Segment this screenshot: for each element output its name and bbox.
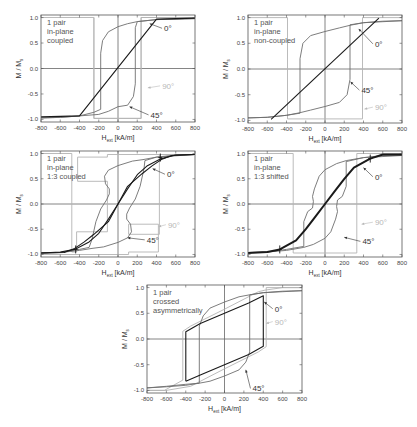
panel-label-line: in-plane (254, 163, 281, 172)
x-tick-label: -800 (35, 260, 48, 266)
x-tick-label: 800 (397, 126, 408, 132)
angle-label: 45° (362, 237, 374, 246)
y-tick-label: -0.5 (28, 226, 39, 232)
x-tick-label: -800 (35, 125, 48, 131)
panel-label-line: coupled (47, 36, 73, 45)
angle-label: 0° (375, 40, 383, 49)
y-tick-label: 0.5 (237, 176, 246, 182)
angle-label: 45° (361, 86, 373, 95)
x-tick-label: 400 (258, 396, 269, 402)
x-tick-label: 800 (190, 260, 201, 266)
angle-label: 0° (164, 24, 172, 33)
x-tick-label: 200 (339, 260, 350, 266)
x-tick-label: 0 (323, 260, 327, 266)
y-tick-label: 1.0 (30, 15, 39, 21)
panel-1-3-coupled: -800-600-400-2000200400600800-1.0-0.50.0… (15, 151, 201, 278)
y-axis-title: M / Ms (15, 58, 24, 79)
angle-label: 0° (375, 173, 383, 182)
x-tick-label: 0 (116, 260, 120, 266)
x-tick-label: 200 (339, 126, 350, 132)
x-tick-label: -200 (93, 260, 106, 266)
angle-label: 0° (275, 305, 283, 314)
arrowhead-icon (245, 370, 248, 373)
arrowhead-icon (148, 86, 151, 89)
x-tick-label: 600 (171, 125, 182, 131)
x-tick-label: -600 (54, 260, 67, 266)
arrowhead-icon (364, 107, 367, 110)
hysteresis-figure: -800-600-400-2000200400600800-1.0-0.50.0… (0, 0, 417, 427)
x-tick-label: -200 (199, 396, 212, 402)
panel-label-line: asymmetrically (153, 306, 203, 315)
panel-non-coupled: -800-600-400-2000200400600800-1.0-0.50.0… (222, 15, 408, 144)
y-axis-title: M / Ms (15, 193, 24, 214)
panel-label-line: 1 pair (254, 154, 273, 163)
x-tick-label: -200 (93, 125, 106, 131)
arrowhead-icon (344, 237, 347, 240)
x-axis-title: Hext [kA/m] (208, 405, 241, 414)
panel-label-line: in-plane (254, 27, 281, 36)
x-tick-label: 400 (358, 126, 369, 132)
x-tick-label: 200 (239, 396, 250, 402)
y-axis-title: M / Ms (222, 58, 231, 79)
x-tick-label: -400 (280, 260, 293, 266)
panel-label-line: 1 pair (47, 18, 66, 27)
x-tick-label: 600 (171, 260, 182, 266)
y-tick-label: 0.0 (237, 201, 246, 207)
y-axis-title: M / Ms (222, 193, 231, 214)
y-tick-label: 0.0 (30, 201, 39, 207)
x-tick-label: 0 (323, 126, 327, 132)
angle-label: 90° (275, 318, 287, 327)
angle-label: 90° (162, 82, 174, 91)
x-tick-label: 400 (151, 125, 162, 131)
y-tick-label: -1.0 (134, 387, 145, 393)
x-tick-label: -600 (261, 260, 274, 266)
panel-label-line: 1:3 shifted (254, 172, 289, 181)
arrowhead-icon (362, 222, 365, 225)
x-tick-label: 0 (116, 125, 120, 131)
x-tick-label: -400 (180, 396, 193, 402)
panel-label-line: 1 pair (254, 18, 273, 27)
x-tick-label: -600 (160, 396, 173, 402)
angle-label: 90° (375, 103, 387, 112)
panel-crossed-asymmetrically: -800-600-400-2000200400600800-1.0-0.50.0… (121, 285, 308, 414)
x-tick-label: 200 (132, 260, 143, 266)
x-tick-label: -400 (73, 260, 86, 266)
y-tick-label: -0.5 (235, 226, 246, 232)
angle-label: 90° (375, 218, 387, 227)
x-tick-label: -400 (280, 126, 293, 132)
x-axis-title: Hext [kA/m] (309, 135, 342, 144)
y-axis-title: M / Ms (121, 328, 130, 349)
y-tick-label: -0.5 (28, 91, 39, 97)
x-tick-label: -200 (300, 126, 313, 132)
panel-coupled: -800-600-400-2000200400600800-1.0-0.50.0… (15, 15, 201, 143)
x-axis-title: Hext [kA/m] (102, 134, 135, 143)
x-tick-label: -600 (54, 125, 67, 131)
panel-label-line: in-plane (47, 163, 74, 172)
panel-label-line: 1 pair (47, 154, 66, 163)
annotation-arrow (130, 107, 149, 115)
x-tick-label: 400 (358, 260, 369, 266)
x-tick-label: 800 (297, 396, 308, 402)
y-tick-label: -1.0 (235, 117, 246, 123)
annotation-arrow (246, 370, 251, 389)
x-tick-label: 800 (190, 125, 201, 131)
x-tick-label: -600 (261, 126, 274, 132)
x-tick-label: -200 (300, 260, 313, 266)
y-tick-label: 0.0 (136, 336, 145, 342)
angle-label: 45° (151, 111, 163, 120)
x-tick-label: 200 (132, 125, 143, 131)
panel-1-3-shifted: -800-600-400-2000200400600800-1.0-0.50.0… (222, 151, 408, 278)
y-tick-label: 0.5 (237, 40, 246, 46)
y-tick-label: 0.0 (30, 66, 39, 72)
panel-label-line: 1 pair (153, 288, 172, 297)
y-tick-label: 1.0 (237, 15, 246, 21)
y-tick-label: -1.0 (235, 251, 246, 257)
y-tick-label: -0.5 (235, 92, 246, 98)
y-tick-label: 1.0 (30, 151, 39, 157)
panel-label-line: non-coupled (254, 36, 295, 45)
x-tick-label: 600 (378, 126, 389, 132)
angle-label: 45° (147, 236, 159, 245)
x-tick-label: -800 (141, 396, 154, 402)
x-tick-label: -400 (73, 125, 86, 131)
x-axis-title: Hext [kA/m] (309, 269, 342, 278)
